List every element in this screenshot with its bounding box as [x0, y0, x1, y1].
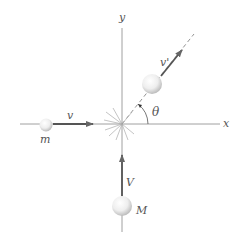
collision-diagram: y x v m V M v' θ — [0, 0, 240, 246]
velocity-label-v-prime: v' — [160, 57, 169, 68]
velocity-label-v: v — [67, 110, 73, 121]
ball-M — [112, 196, 132, 216]
velocity-label-V: V — [126, 177, 134, 188]
y-axis-label: y — [119, 12, 125, 23]
mass-label-M: M — [136, 205, 147, 216]
ball-combined — [142, 74, 162, 94]
ball-m — [40, 119, 53, 132]
mass-label-m: m — [40, 134, 50, 145]
x-axis-label: x — [223, 118, 229, 129]
diagram-canvas — [0, 0, 240, 246]
angle-label-theta: θ — [152, 106, 159, 118]
